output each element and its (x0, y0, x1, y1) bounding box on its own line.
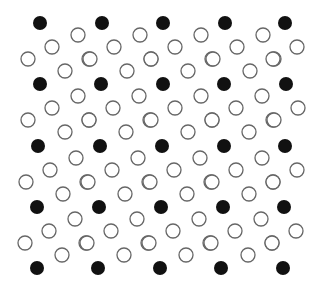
filled-dot (31, 139, 45, 153)
open-circle (45, 40, 59, 54)
open-circle (55, 248, 69, 262)
open-circle (142, 236, 156, 250)
lattice-svg (0, 0, 319, 290)
filled-dot (277, 200, 291, 214)
open-circle (80, 236, 94, 250)
open-circle (230, 40, 244, 54)
open-circle (205, 175, 219, 189)
open-circle (106, 101, 120, 115)
filled-dot (279, 77, 293, 91)
open-circle (229, 101, 243, 115)
open-circle (168, 101, 182, 115)
open-circle (181, 64, 195, 78)
open-circle (289, 224, 303, 238)
open-circle (290, 40, 304, 54)
open-circle (291, 101, 305, 115)
open-circle (267, 113, 281, 127)
open-circle (45, 101, 59, 115)
open-circle (107, 40, 121, 54)
open-circle (21, 113, 35, 127)
filled-dot (94, 77, 108, 91)
open-circle (21, 52, 35, 66)
open-circle (206, 52, 220, 66)
filled-dot (30, 261, 44, 275)
filled-dot (91, 261, 105, 275)
open-circle (193, 151, 207, 165)
open-circle (117, 248, 131, 262)
open-circle (205, 113, 219, 127)
open-circle (69, 151, 83, 165)
open-circle (105, 163, 119, 177)
open-circle (68, 212, 82, 226)
open-circle (181, 125, 195, 139)
filled-dot (217, 77, 231, 91)
filled-dot (93, 139, 107, 153)
open-circle (58, 125, 72, 139)
open-circle (254, 212, 268, 226)
open-circle (241, 248, 255, 262)
filled-dot (33, 77, 47, 91)
open-circle (243, 64, 257, 78)
open-circle (266, 175, 280, 189)
open-circle (19, 175, 33, 189)
filled-dot (217, 139, 231, 153)
open-circle (179, 248, 193, 262)
filled-dot (155, 139, 169, 153)
filled-dot (153, 261, 167, 275)
open-circle (42, 224, 56, 238)
filled-dot (278, 16, 292, 30)
open-circle (104, 224, 118, 238)
open-circle (256, 28, 270, 42)
open-circle (81, 175, 95, 189)
open-circle (228, 224, 242, 238)
open-circle (119, 125, 133, 139)
open-circle (71, 28, 85, 42)
open-circle (43, 163, 57, 177)
open-circle (180, 187, 194, 201)
filled-dot (214, 261, 228, 275)
open-circle (255, 151, 269, 165)
open-circle (82, 113, 96, 127)
open-circle (242, 187, 256, 201)
open-circle (131, 151, 145, 165)
open-circle (118, 187, 132, 201)
filled-dot (33, 16, 47, 30)
filled-dot (92, 200, 106, 214)
filled-dot (276, 261, 290, 275)
open-circle (130, 212, 144, 226)
open-circle (18, 236, 32, 250)
filled-dot (30, 200, 44, 214)
dot-lattice-figure (0, 0, 319, 290)
open-circle (266, 52, 280, 66)
open-circle (229, 163, 243, 177)
open-circle (58, 64, 72, 78)
open-circle (120, 64, 134, 78)
open-circle (204, 236, 218, 250)
open-circle (132, 89, 146, 103)
open-circle (83, 52, 97, 66)
open-circle (144, 52, 158, 66)
open-circle (194, 28, 208, 42)
filled-dot (95, 16, 109, 30)
filled-dot (156, 16, 170, 30)
filled-dot (278, 139, 292, 153)
filled-dot (216, 200, 230, 214)
open-circle (194, 89, 208, 103)
open-circle (167, 163, 181, 177)
open-circle (168, 40, 182, 54)
open-circle (133, 28, 147, 42)
filled-dot (156, 77, 170, 91)
open-circle (166, 224, 180, 238)
filled-dot (218, 16, 232, 30)
open-circle (144, 113, 158, 127)
open-circle (71, 89, 85, 103)
open-circle (242, 125, 256, 139)
open-circle (290, 163, 304, 177)
open-circle (255, 89, 269, 103)
open-circle (192, 212, 206, 226)
open-circle (143, 175, 157, 189)
open-circle (56, 187, 70, 201)
open-circle (265, 236, 279, 250)
filled-dot (154, 200, 168, 214)
